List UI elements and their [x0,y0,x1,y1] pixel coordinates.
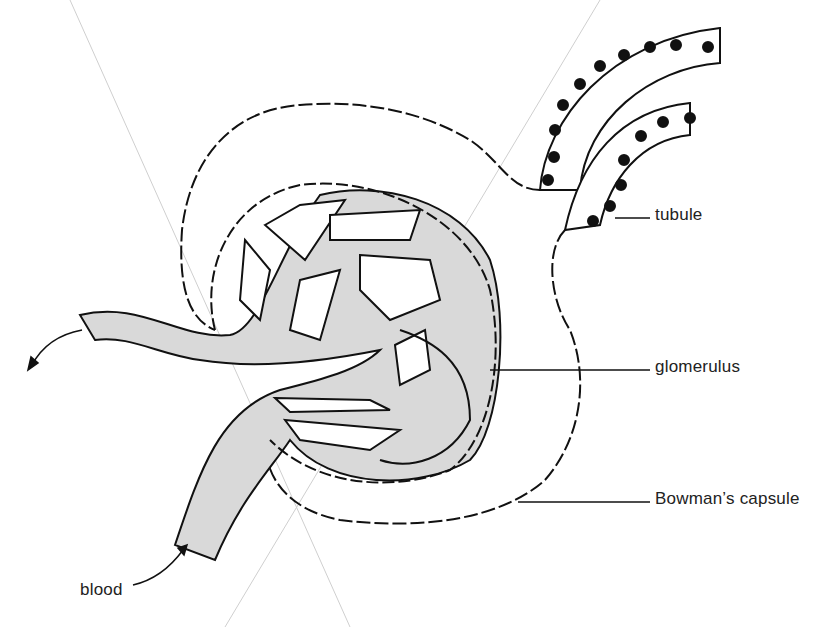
blood-out-arrow [28,330,82,370]
tubule [540,28,720,230]
label-blood: blood [80,580,123,600]
label-glomerulus: glomerulus [655,357,740,377]
label-bowmans-capsule: Bowman’s capsule [655,489,800,509]
diagram-canvas [0,0,827,627]
label-tubule: tubule [655,205,703,225]
blood-vessels [80,190,500,560]
blood-in-arrow [133,545,187,585]
leader-lines [490,218,650,502]
nephron-diagram: tubule glomerulus Bowman’s capsule blood [0,0,827,627]
